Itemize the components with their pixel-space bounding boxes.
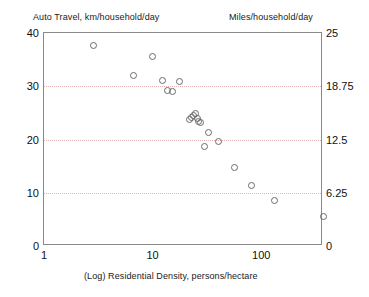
data-point: [215, 138, 222, 145]
data-point: [130, 72, 137, 79]
gridline: [44, 140, 321, 141]
data-point: [320, 213, 327, 220]
x-axis-caption: (Log) Residential Density, persons/hecta…: [84, 272, 258, 281]
left-axis-title: Auto Travel, km/household/day: [33, 13, 159, 22]
plot-area: 010203040 06.2512.518.7525 110100: [43, 32, 322, 245]
data-point: [90, 42, 97, 49]
gridline: [44, 86, 321, 87]
data-point: [271, 197, 278, 204]
y-tick-left-label: 40: [27, 27, 39, 39]
gridline: [44, 193, 321, 194]
y-tick-left-label: 0: [33, 240, 39, 252]
data-point: [159, 77, 166, 84]
y-tick-left-label: 30: [27, 80, 39, 92]
scatter-chart-figure: Auto Travel, km/household/day Miles/hous…: [0, 0, 369, 297]
data-point: [248, 182, 255, 189]
y-tick-right-label: 6.25: [326, 187, 347, 199]
y-tick-right-label: 25: [326, 27, 338, 39]
x-tick-label: 100: [252, 249, 270, 261]
x-tick-label: 1: [41, 249, 47, 261]
y-tick-right-label: 12.5: [326, 134, 347, 146]
x-tick-label: 10: [147, 249, 159, 261]
data-point: [176, 78, 183, 85]
y-tick-right-label: 0: [326, 240, 332, 252]
data-point: [197, 119, 204, 126]
data-point: [201, 143, 208, 150]
y-tick-right-label: 18.75: [326, 80, 354, 92]
data-point: [205, 129, 212, 136]
data-point: [149, 53, 156, 60]
y-tick-left-label: 10: [27, 187, 39, 199]
right-axis-title: Miles/household/day: [229, 13, 313, 22]
y-tick-left-label: 20: [27, 134, 39, 146]
data-point: [231, 164, 238, 171]
data-point: [169, 88, 176, 95]
